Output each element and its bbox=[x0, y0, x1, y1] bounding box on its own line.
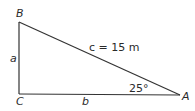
side-label-c: c = 15 m bbox=[89, 41, 139, 54]
vertex-label-c: C bbox=[16, 95, 24, 108]
side-c-hypotenuse bbox=[19, 22, 180, 95]
side-b bbox=[19, 94, 180, 95]
side-label-b: b bbox=[82, 95, 89, 108]
vertex-label-b: B bbox=[16, 7, 24, 20]
vertex-label-a: A bbox=[181, 90, 190, 103]
right-triangle-diagram: B C A a b c = 15 m 25° bbox=[0, 0, 195, 111]
angle-label-a: 25° bbox=[129, 82, 149, 95]
side-label-a: a bbox=[10, 52, 17, 65]
